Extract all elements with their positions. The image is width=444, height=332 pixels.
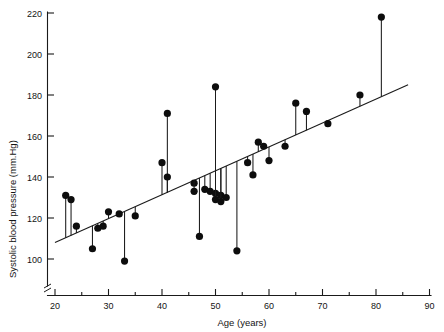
data-point-group	[212, 83, 219, 171]
data-point-group	[292, 100, 299, 135]
x-tick-60: 60	[264, 289, 274, 311]
y-tick-220: 220	[27, 9, 54, 19]
y-tick-100: 100	[27, 255, 54, 265]
x-tick-label-40: 40	[157, 301, 167, 311]
y-tick-160: 160	[27, 132, 54, 142]
y-tick-label-200: 200	[27, 50, 42, 60]
x-tick-20: 20	[50, 289, 60, 311]
data-point-marker	[196, 233, 203, 240]
data-point-group	[164, 173, 171, 192]
data-point-group	[116, 210, 123, 217]
y-tick-label-220: 220	[27, 9, 42, 19]
data-point-marker	[100, 223, 107, 230]
x-tick-40: 40	[157, 289, 167, 311]
data-point-marker	[223, 194, 230, 201]
data-point-marker	[121, 257, 128, 264]
scatter-plot-svg: Systolic blood pressure (mm.Hg) Age (yea…	[0, 0, 444, 332]
data-point-group	[265, 147, 272, 164]
y-tick-label-120: 120	[27, 214, 42, 224]
x-tick-label-80: 80	[371, 301, 381, 311]
data-point-group	[212, 171, 219, 203]
data-point-group	[378, 14, 385, 97]
data-point-marker	[233, 247, 240, 254]
data-point-marker	[89, 245, 96, 252]
data-point-marker	[212, 83, 219, 90]
x-tick-90: 90	[424, 289, 434, 311]
data-point-marker	[356, 91, 363, 98]
data-point-marker	[303, 108, 310, 115]
x-tick-70: 70	[317, 289, 327, 311]
y-axis-ticks: 220 200 180 160 140 120 100	[27, 9, 54, 265]
x-axis-title: Age (years)	[217, 317, 266, 328]
data-point-group	[249, 154, 256, 178]
x-tick-label-90: 90	[424, 301, 434, 311]
data-point-marker	[164, 110, 171, 117]
x-tick-label-30: 30	[103, 301, 113, 311]
data-point-marker	[158, 159, 165, 166]
data-point-marker	[265, 157, 272, 164]
y-tick-120: 120	[27, 214, 54, 224]
data-point-marker	[324, 120, 331, 127]
data-point-group	[303, 108, 310, 130]
y-tick-label-140: 140	[27, 173, 42, 183]
data-point-marker	[378, 14, 385, 21]
regression-line	[55, 85, 408, 243]
data-point-group	[121, 212, 128, 265]
data-point-group	[132, 207, 139, 220]
y-tick-label-100: 100	[27, 255, 42, 265]
data-points-layer	[62, 14, 385, 265]
data-point-group	[233, 161, 240, 254]
x-tick-30: 30	[103, 289, 113, 311]
data-point-group	[223, 166, 230, 201]
y-tick-140: 140	[27, 173, 54, 183]
x-tick-80: 80	[371, 289, 381, 311]
data-point-marker	[105, 208, 112, 215]
data-point-group	[67, 196, 74, 235]
y-tick-180: 180	[27, 91, 54, 101]
x-tick-label-60: 60	[264, 301, 274, 311]
x-tick-label-70: 70	[317, 301, 327, 311]
x-tick-50: 50	[210, 289, 220, 311]
data-point-marker	[116, 210, 123, 217]
data-point-group	[324, 120, 331, 127]
data-point-group	[260, 143, 267, 150]
data-point-marker	[67, 196, 74, 203]
y-axis-title: Systolic blood pressure (mm.Hg)	[7, 140, 18, 278]
x-tick-label-20: 20	[50, 301, 60, 311]
x-axis-ticks: 20 30 40 50 60 70 80 90	[50, 289, 435, 311]
data-point-group	[356, 91, 363, 106]
y-tick-200: 200	[27, 50, 54, 60]
data-point-marker	[260, 143, 267, 150]
y-tick-label-160: 160	[27, 132, 42, 142]
data-point-marker	[132, 212, 139, 219]
data-point-marker	[281, 143, 288, 150]
x-tick-label-50: 50	[210, 301, 220, 311]
data-point-marker	[164, 173, 171, 180]
data-point-marker	[73, 223, 80, 230]
data-point-marker	[244, 159, 251, 166]
chart-figure: Systolic blood pressure (mm.Hg) Age (yea…	[0, 0, 444, 332]
data-point-marker	[191, 188, 198, 195]
y-tick-label-180: 180	[27, 91, 42, 101]
data-point-marker	[249, 171, 256, 178]
data-point-marker	[292, 100, 299, 107]
